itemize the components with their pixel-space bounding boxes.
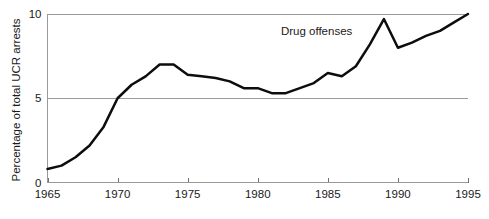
- data-series-group: [48, 14, 469, 169]
- y-tick-label-5: 5: [35, 92, 41, 104]
- chart-container: Percentage of total UCR arrests 0510 196…: [0, 0, 489, 219]
- x-tick-labels-group: 1965197019751980198519901995: [35, 188, 481, 200]
- x-tick-label-1975: 1975: [175, 188, 201, 200]
- x-tick-marks-group: [49, 178, 469, 183]
- x-tick-label-1980: 1980: [245, 188, 271, 200]
- y-tick-label-10: 10: [29, 8, 42, 20]
- x-tick-label-1965: 1965: [35, 188, 61, 200]
- x-tick-label-1995: 1995: [455, 188, 481, 200]
- x-tick-label-1985: 1985: [315, 188, 341, 200]
- data-line-drug-offenses: [48, 14, 469, 169]
- annotations-group: Drug offenses: [281, 25, 353, 37]
- x-tick-label-1970: 1970: [105, 188, 131, 200]
- x-tick-label-1990: 1990: [385, 188, 411, 200]
- gridlines-group: [48, 15, 469, 99]
- series-annotation-drug-offenses: Drug offenses: [281, 25, 353, 37]
- y-axis-title: Percentage of total UCR arrests: [10, 18, 22, 181]
- y-tick-labels-group: 0510: [29, 8, 42, 189]
- y-axis-title-group: Percentage of total UCR arrests: [10, 18, 22, 181]
- line-chart: Percentage of total UCR arrests 0510 196…: [0, 0, 489, 219]
